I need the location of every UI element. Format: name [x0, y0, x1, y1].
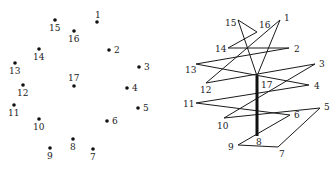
point-dot [37, 47, 41, 51]
vertex-label: 2 [294, 44, 300, 54]
point-label: 8 [70, 142, 76, 152]
point-dot [137, 65, 141, 69]
vertex-label: 12 [200, 85, 211, 95]
point-label: 1 [95, 10, 101, 20]
point-label: 5 [143, 103, 149, 113]
point-label: 10 [33, 122, 45, 132]
point-dot [72, 84, 76, 88]
point-dot [37, 117, 41, 121]
point-dot [71, 137, 75, 141]
vertex-label: 13 [185, 65, 197, 75]
point-label: 17 [68, 73, 80, 83]
point-label: 9 [47, 151, 53, 161]
point-dot [95, 20, 99, 24]
vertex-label: 15 [225, 18, 237, 28]
point-label: 3 [144, 62, 150, 72]
point-label: 16 [68, 34, 80, 44]
point-dot [48, 146, 52, 150]
point-dot [21, 83, 25, 87]
point-label: 2 [114, 45, 120, 55]
point-dot [12, 103, 16, 107]
point-label: 15 [49, 23, 61, 33]
vertex-label: 4 [314, 81, 320, 91]
vertex-label: 14 [215, 44, 227, 54]
point-label: 11 [8, 108, 19, 118]
left-panel-points: 1234567891011121314151617 [8, 10, 150, 162]
vertex-label: 8 [256, 137, 262, 147]
vertex-label: 5 [324, 102, 330, 112]
point-label: 13 [9, 66, 21, 76]
vertex-label: 17 [261, 80, 273, 90]
point-dot [13, 61, 17, 65]
point-dot [125, 86, 129, 90]
point-dot [53, 18, 57, 22]
point-dot [91, 147, 95, 151]
vertex-label: 9 [228, 142, 234, 152]
vertex-label: 7 [279, 149, 285, 159]
point-dot [72, 29, 76, 33]
vertex-label: 3 [319, 59, 325, 69]
point-dot [136, 106, 140, 110]
vertex-label: 6 [294, 110, 300, 120]
point-label: 14 [33, 52, 45, 62]
vertex-label: 16 [259, 20, 271, 30]
point-label: 6 [112, 116, 118, 126]
point-dot [105, 119, 109, 123]
vertex-label: 10 [217, 121, 229, 131]
point-label: 4 [132, 83, 138, 93]
point-dot [107, 48, 111, 52]
vertex-label: 1 [284, 13, 290, 23]
point-label: 7 [90, 152, 96, 162]
vertex-label: 11 [183, 99, 194, 109]
point-label: 12 [17, 88, 28, 98]
diagram-canvas: 1234567891011121314151617 12345678910111… [0, 0, 336, 170]
right-panel-path: 1234567891011121314151617 [183, 13, 330, 159]
